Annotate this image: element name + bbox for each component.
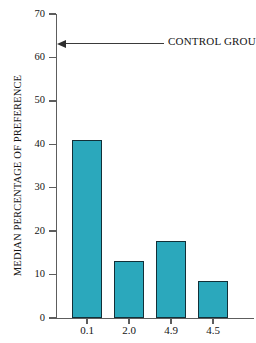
y-tick-label: 60 — [5, 52, 45, 62]
annotation-label: CONTROL GROUP — [168, 35, 256, 47]
y-tick-mark — [49, 274, 56, 275]
y-tick-label: 0 — [5, 313, 45, 323]
plot-area: 010203040506070 0.12.04.94.5 CONTROL GRO… — [0, 0, 256, 343]
y-tick-mark — [49, 57, 56, 58]
x-tick-label: 0.1 — [64, 324, 110, 336]
y-tick-label: 30 — [5, 182, 45, 192]
y-tick-label: 70 — [5, 9, 45, 19]
control-group-annotation: CONTROL GROUP — [56, 37, 246, 51]
x-tick-label: 4.5 — [190, 324, 236, 336]
bar — [72, 140, 102, 318]
y-tick-mark — [49, 13, 56, 14]
bar — [156, 241, 186, 318]
x-tick-label: 4.9 — [148, 324, 194, 336]
arrow-left-icon — [57, 40, 66, 48]
y-tick-label: 40 — [5, 139, 45, 149]
x-tick-label: 2.0 — [106, 324, 152, 336]
y-tick-label: 10 — [5, 269, 45, 279]
annotation-leader-line — [66, 43, 164, 44]
y-tick-mark — [49, 187, 56, 188]
bar — [114, 261, 144, 318]
y-tick-mark — [49, 230, 56, 231]
bar-chart: MEDIAN PERCENTAGE OF PREFERENCE 01020304… — [0, 0, 256, 343]
y-axis-line — [56, 14, 57, 319]
y-tick-label: 50 — [5, 95, 45, 105]
y-tick-mark — [49, 100, 56, 101]
y-tick-mark — [49, 317, 56, 318]
bar — [198, 281, 228, 318]
y-tick-label: 20 — [5, 226, 45, 236]
y-tick-mark — [49, 144, 56, 145]
